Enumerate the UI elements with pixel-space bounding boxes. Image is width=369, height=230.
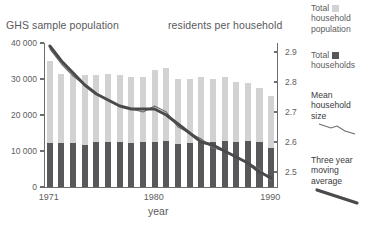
legend-label-line3: average [311, 176, 369, 186]
x-axis [44, 187, 278, 188]
line-three-year-moving-average [50, 46, 271, 178]
legend-item-total-household-population: Total household population [311, 3, 369, 34]
chart-container: GHS sample population residents per hous… [0, 0, 369, 230]
x-axis-title: year [148, 205, 168, 217]
right-axis-title: residents per household [168, 19, 282, 31]
legend-item-mean-household-size: Mean household size [311, 90, 369, 137]
left-axis-tick-label: 20 000 [11, 110, 37, 120]
legend-item-total-households: Total households [311, 50, 369, 71]
line-series-layer [44, 43, 277, 187]
right-axis-tick-label: 2.6 [285, 137, 297, 147]
legend-label-line1: Mean [311, 90, 369, 100]
x-axis-tick-label: 1980 [144, 192, 164, 202]
legend-label-line2: household [311, 100, 369, 110]
line-mean-household-size [50, 49, 271, 181]
legend-swatch-total-households [332, 52, 339, 59]
right-y-axis [277, 43, 278, 188]
right-axis-tick-label: 2.7 [285, 107, 297, 117]
left-axis-title: GHS sample population [6, 19, 119, 31]
legend-label-line1: Total [311, 50, 369, 60]
right-axis-tick-label: 2.8 [285, 77, 297, 87]
right-axis-tick-label: 2.9 [285, 47, 297, 57]
right-axis-tick-label: 2.5 [285, 167, 297, 177]
x-axis-tick-label: 1990 [260, 192, 280, 202]
left-axis-tick-label: 30 000 [11, 74, 37, 84]
x-axis-tick-label: 1971 [39, 192, 59, 202]
legend-label-line2: households [311, 60, 369, 70]
legend-label-line3: population [311, 24, 369, 34]
legend-label-line3: size [311, 111, 369, 121]
legend-item-three-year-moving-average: Three year moving average [311, 155, 369, 206]
plot-area [44, 43, 277, 187]
legend-label-line1: Total [311, 3, 369, 13]
legend-label-line1: Three year [311, 155, 369, 165]
left-axis-tick-label: 40 000 [11, 38, 37, 48]
legend-label-line2: moving [311, 165, 369, 175]
legend-label-line2: household [311, 13, 369, 23]
left-axis-tick-label: 10 000 [11, 146, 37, 156]
legend-marker-mean-household-size-icon [311, 121, 367, 137]
legend-marker-three-year-moving-average-icon [311, 186, 367, 206]
legend-swatch-total-household-population [332, 5, 339, 12]
left-axis-tick-label: 0 [32, 182, 37, 192]
